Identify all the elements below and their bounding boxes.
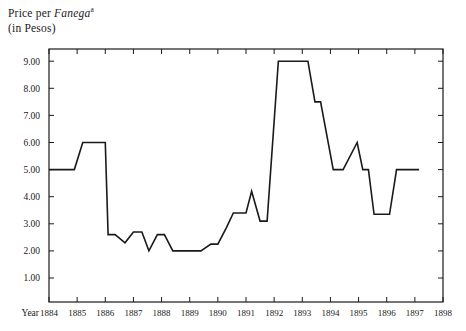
plot-frame <box>49 49 443 302</box>
x-tick-label: 1891 <box>237 308 255 318</box>
y-tick-label: 5.00 <box>23 165 40 175</box>
x-tick-label: 1896 <box>378 308 397 318</box>
y-tick-label: 9.00 <box>23 57 40 67</box>
x-tick-label: 1895 <box>350 308 369 318</box>
x-axis-ticks: 1884188518861887188818891890189118921893… <box>40 49 453 318</box>
x-tick-label: 1897 <box>406 308 425 318</box>
y-tick-label: 7.00 <box>23 111 40 121</box>
x-axis-label: Year <box>21 308 39 318</box>
chart-plot-area: 1.002.003.004.005.006.007.008.009.00 188… <box>0 0 466 331</box>
x-tick-label: 1894 <box>321 308 340 318</box>
x-tick-label: 1898 <box>434 308 453 318</box>
x-tick-label: 1885 <box>68 308 87 318</box>
price-per-fanega-chart: Price per Fanegaa (in Pesos) 1.002.003.0… <box>0 0 466 331</box>
x-tick-label: 1888 <box>153 308 172 318</box>
x-tick-label: 1887 <box>124 308 143 318</box>
y-tick-label: 4.00 <box>23 192 40 202</box>
x-tick-label: 1889 <box>181 308 200 318</box>
x-tick-label: 1884 <box>40 308 59 318</box>
y-tick-label: 1.00 <box>23 273 40 283</box>
y-tick-label: 3.00 <box>23 219 40 229</box>
x-tick-label: 1886 <box>96 308 115 318</box>
series-line-price <box>49 61 419 251</box>
x-tick-label: 1890 <box>209 308 228 318</box>
y-tick-label: 6.00 <box>23 138 40 148</box>
x-tick-label: 1893 <box>293 308 312 318</box>
y-tick-label: 8.00 <box>23 84 40 94</box>
x-tick-label: 1892 <box>265 308 283 318</box>
y-tick-label: 2.00 <box>23 246 40 256</box>
y-axis-ticks: 1.002.003.004.005.006.007.008.009.00 <box>23 57 443 284</box>
